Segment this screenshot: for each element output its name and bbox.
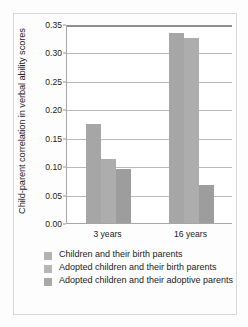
y-axis-tick-label: 0.30 bbox=[24, 48, 62, 58]
bar-group bbox=[169, 25, 214, 223]
y-axis-tick-label: 0.25 bbox=[24, 77, 62, 87]
y-axis-tick-label: 0.10 bbox=[24, 162, 62, 172]
legend-item[interactable]: Adopted children and their birth parents bbox=[44, 262, 236, 273]
bar-group bbox=[86, 25, 131, 223]
bar bbox=[86, 124, 101, 224]
legend-item-label: Adopted children and their adoptive pare… bbox=[59, 275, 233, 286]
legend-item[interactable]: Adopted children and their adoptive pare… bbox=[44, 275, 236, 286]
x-axis-tick-label: 3 years bbox=[93, 229, 121, 239]
figure: Child-parent correlation in verbal abili… bbox=[0, 0, 248, 327]
bar bbox=[101, 159, 116, 223]
y-axis-tick-label: 0.05 bbox=[24, 191, 62, 201]
bar bbox=[116, 169, 131, 223]
bar bbox=[199, 185, 214, 223]
legend-swatch-series-2 bbox=[44, 265, 52, 273]
y-axis-tick-labels: 0.000.050.100.150.200.250.300.35 bbox=[24, 20, 66, 225]
axes bbox=[66, 25, 232, 224]
x-axis-tick-labels: 3 years16 years bbox=[66, 226, 232, 242]
y-axis-tick-label: 0.35 bbox=[24, 20, 62, 30]
y-axis-tick-label: 0.20 bbox=[24, 105, 62, 115]
legend: Children and their birth parentsAdopted … bbox=[44, 249, 236, 289]
legend-item-label: Children and their birth parents bbox=[59, 249, 183, 260]
x-axis-tick-label: 16 years bbox=[174, 229, 207, 239]
plot-area: 0.000.050.100.150.200.250.300.35 3 years… bbox=[24, 20, 232, 232]
bar bbox=[184, 38, 199, 223]
y-axis-tick-label: 0.00 bbox=[24, 219, 62, 229]
legend-swatch-series-3 bbox=[44, 278, 52, 286]
bar bbox=[169, 33, 184, 223]
legend-swatch-series-1 bbox=[44, 252, 52, 260]
legend-item[interactable]: Children and their birth parents bbox=[44, 249, 236, 260]
bar-series-container bbox=[67, 25, 232, 223]
y-axis-tick-label: 0.15 bbox=[24, 134, 62, 144]
legend-item-label: Adopted children and their birth parents bbox=[59, 262, 217, 273]
